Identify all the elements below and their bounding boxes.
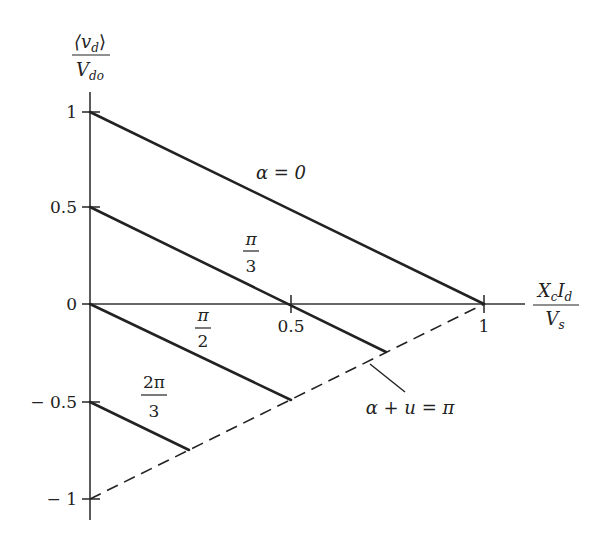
chart: 1 0.5 0 − 0.5 − 1 0.5 1 ⟨vd⟩ Vdo XcId Vs… (0, 0, 608, 546)
annotation-2pi-3-den: 3 (149, 401, 160, 421)
y-tick-label: 0.5 (50, 197, 77, 217)
line-alpha-pi-3 (90, 207, 386, 352)
x-label-num-a: X (536, 280, 552, 301)
y-tick-label: − 0.5 (30, 392, 77, 412)
axes (82, 92, 525, 520)
y-label-num-close: ⟩ (99, 31, 106, 52)
svg-text:Vs: Vs (545, 308, 564, 332)
x-axis-label: XcId Vs (533, 280, 579, 332)
y-tick-label: − 1 (47, 489, 77, 509)
y-tick-labels: 1 0.5 0 − 0.5 − 1 (30, 102, 77, 509)
y-label-den-sub: do (89, 69, 104, 83)
annotation-pi-3: π 3 (243, 229, 259, 276)
annotation-2pi-3: 2π 3 (141, 372, 167, 421)
annotation-pi-2-num: π (196, 305, 209, 325)
y-axis-label: ⟨vd⟩ Vdo (72, 31, 110, 83)
x-tick-label: 0.5 (277, 316, 304, 336)
x-label-num-b-sub: d (565, 290, 573, 304)
annotation-alpha-0: α = 0 (256, 162, 306, 183)
annotation-2pi-3-num: 2π (143, 372, 165, 392)
annotation-pi-3-den: 3 (246, 256, 257, 276)
line-alpha-pi-2 (90, 304, 291, 400)
leader-line (370, 364, 405, 392)
svg-text:XcId: XcId (536, 280, 573, 304)
x-tick-labels: 0.5 1 (277, 316, 489, 336)
annotation-pi-2: π 2 (195, 305, 211, 351)
x-label-den-sub: s (558, 318, 564, 332)
svg-text:Vdo: Vdo (76, 59, 104, 83)
annotation-pi-3-num: π (244, 229, 257, 249)
y-tick-label: 1 (66, 102, 77, 122)
x-tick-label: 1 (479, 316, 490, 336)
line-alpha-2pi-3 (90, 402, 189, 450)
line-alpha-0 (90, 112, 484, 304)
annotation-boundary: α + u = π (366, 397, 456, 418)
y-tick-label: 0 (66, 294, 77, 314)
svg-text:⟨vd⟩: ⟨vd⟩ (74, 31, 106, 55)
y-label-num: ⟨v (74, 31, 91, 52)
annotation-pi-2-den: 2 (198, 331, 209, 351)
